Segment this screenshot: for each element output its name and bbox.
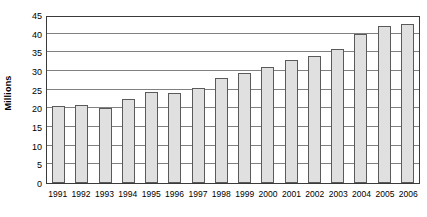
bar-slot [396,17,419,183]
x-tick-label: 1993 [93,188,116,204]
bar-slot [140,17,163,183]
x-tick-label: 1991 [46,188,69,204]
bar[interactable] [75,105,88,183]
y-axis-title-label: Millions [3,75,13,110]
x-tick-label: 2003 [327,188,350,204]
x-tick-label: 2001 [280,188,303,204]
plot-area [46,16,420,184]
y-axis-title: Millions [0,0,16,186]
y-tick-label: 30 [18,67,42,77]
x-tick-label: 2005 [373,188,396,204]
bar[interactable] [261,67,274,183]
x-tick-label: 1997 [186,188,209,204]
bar-slot [187,17,210,183]
bar[interactable] [308,56,321,183]
bar-slot [94,17,117,183]
bar[interactable] [378,26,391,183]
bar[interactable] [354,34,367,183]
x-tick-label: 2000 [256,188,279,204]
x-tick-label: 2006 [397,188,420,204]
bar[interactable] [168,93,181,183]
bar[interactable] [331,49,344,183]
y-tick-label: 5 [18,160,42,170]
bar[interactable] [122,99,135,183]
x-axis-tick-labels: 1991199219931994199519961997199819992000… [46,188,420,204]
bars-container [47,17,419,183]
bar-slot [303,17,326,183]
x-tick-label: 1992 [69,188,92,204]
x-tick-label: 2004 [350,188,373,204]
y-tick-label: 0 [18,179,42,189]
bar-slot [233,17,256,183]
bar-slot [210,17,233,183]
y-tick-label: 15 [18,123,42,133]
bar[interactable] [238,73,251,183]
x-tick-label: 1996 [163,188,186,204]
bar[interactable] [99,108,112,183]
y-axis-tick-labels: 051015202530354045 [18,10,42,186]
bar-slot [256,17,279,183]
y-tick-label: 40 [18,30,42,40]
x-tick-label: 1998 [210,188,233,204]
bar[interactable] [285,60,298,183]
x-tick-label: 2002 [303,188,326,204]
bar-slot [70,17,93,183]
bar-slot [373,17,396,183]
bar-chart: Millions 051015202530354045 199119921993… [0,0,427,217]
y-tick-label: 25 [18,86,42,96]
bar[interactable] [401,24,414,183]
bar-slot [47,17,70,183]
bar-slot [349,17,372,183]
y-tick-label: 10 [18,142,42,152]
bar-slot [326,17,349,183]
bar[interactable] [192,88,205,183]
y-tick-label: 35 [18,48,42,58]
x-tick-label: 1999 [233,188,256,204]
bar[interactable] [145,92,158,183]
y-tick-label: 45 [18,11,42,21]
x-tick-label: 1995 [140,188,163,204]
bar[interactable] [52,106,65,183]
bar-slot [280,17,303,183]
bar[interactable] [215,78,228,183]
bar-slot [163,17,186,183]
y-tick-label: 20 [18,104,42,114]
x-tick-label: 1994 [116,188,139,204]
bar-slot [117,17,140,183]
